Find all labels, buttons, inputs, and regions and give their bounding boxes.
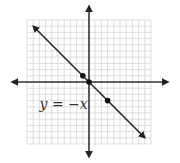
coordinate-plane: y = −x [0,0,180,163]
annotations: y = −x [39,96,88,112]
data-point [80,73,86,79]
equation-label: y = −x [39,96,88,112]
data-point [105,98,111,104]
data-point [86,79,92,85]
